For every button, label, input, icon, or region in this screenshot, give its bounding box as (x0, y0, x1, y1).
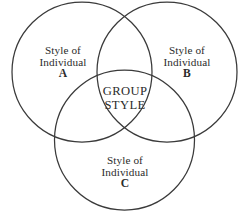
intersection-label-group-style: GROUP STYLE (86, 84, 164, 112)
set-label-c: Style of Individual C (80, 154, 170, 191)
set-label-c-line1: Style of (80, 154, 170, 166)
venn-diagram: Style of Individual A Style of Individua… (0, 0, 249, 221)
set-label-a-id: A (20, 68, 106, 81)
set-label-a-line1: Style of (20, 44, 106, 56)
set-label-b: Style of Individual B (144, 44, 230, 81)
set-label-b-line1: Style of (144, 44, 230, 56)
set-label-a: Style of Individual A (20, 44, 106, 81)
intersection-label-line2: STYLE (86, 98, 164, 112)
intersection-label-line1: GROUP (86, 84, 164, 98)
set-label-b-id: B (144, 68, 230, 81)
set-label-c-id: C (80, 178, 170, 191)
